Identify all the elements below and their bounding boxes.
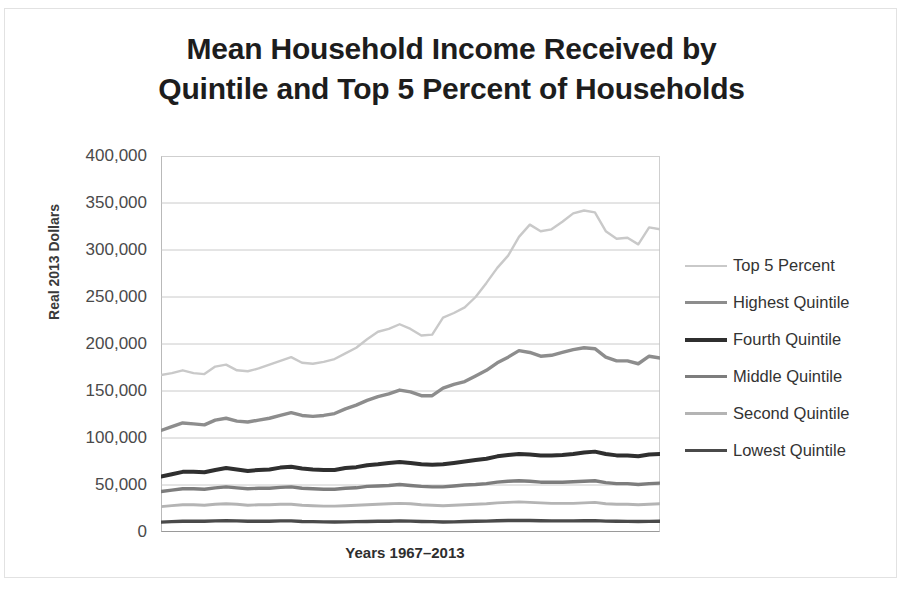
series-line (161, 348, 660, 431)
figure-frame: Mean Household Income Received by Quinti… (4, 8, 897, 578)
legend-item-label: Highest Quintile (733, 293, 849, 312)
y-axis-tick-label: 150,000 (51, 382, 147, 399)
legend-item[interactable]: Second Quintile (685, 395, 895, 432)
plot-area-wrapper: Real 2013 Dollars 400,000350,000300,0002… (5, 9, 898, 579)
series-line (161, 481, 660, 492)
legend-line-icon (685, 449, 727, 452)
y-axis-tick-label: 100,000 (51, 429, 147, 446)
line-chart-canvas (161, 156, 660, 532)
y-axis-tick-label: 50,000 (51, 476, 147, 493)
y-axis-tick-label: 300,000 (51, 241, 147, 258)
series-line (161, 520, 660, 522)
legend-item-label: Top 5 Percent (733, 256, 835, 275)
legend-line-icon (685, 375, 727, 378)
legend-line-icon (685, 301, 727, 304)
legend-item[interactable]: Fourth Quintile (685, 321, 895, 358)
legend-item[interactable]: Lowest Quintile (685, 432, 895, 469)
y-axis-tick-label: 200,000 (51, 335, 147, 352)
series-line (161, 502, 660, 507)
series-line (161, 452, 660, 477)
x-axis-title: Years 1967–2013 (155, 544, 655, 561)
legend-line-icon (685, 338, 727, 342)
y-axis-tick-label: 0 (51, 523, 147, 540)
y-axis-tick-label: 350,000 (51, 194, 147, 211)
y-axis-tick-labels: 400,000350,000300,000250,000200,000150,0… (51, 9, 147, 579)
y-axis-tick-label: 400,000 (51, 147, 147, 164)
y-axis-tick-label: 250,000 (51, 288, 147, 305)
legend-line-icon (685, 412, 727, 415)
series-line (161, 211, 660, 376)
legend-item-label: Lowest Quintile (733, 441, 846, 460)
legend-item-label: Second Quintile (733, 404, 850, 423)
legend-item[interactable]: Highest Quintile (685, 284, 895, 321)
legend-item[interactable]: Top 5 Percent (685, 247, 895, 284)
legend-item-label: Middle Quintile (733, 367, 842, 386)
legend-item[interactable]: Middle Quintile (685, 358, 895, 395)
chart-legend: Top 5 PercentHighest QuintileFourth Quin… (685, 247, 895, 469)
legend-line-icon (685, 265, 727, 267)
legend-item-label: Fourth Quintile (733, 330, 841, 349)
